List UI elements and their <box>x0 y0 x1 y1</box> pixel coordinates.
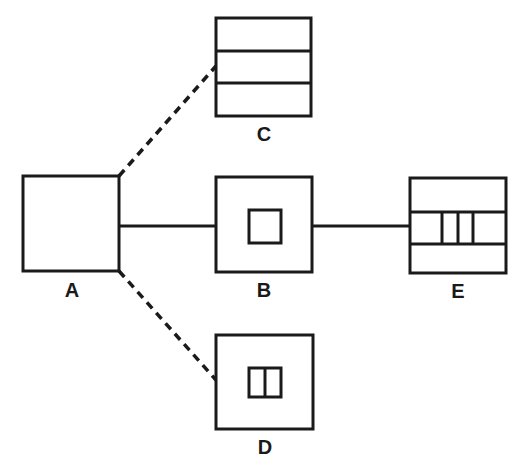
node-b-box <box>216 177 312 272</box>
node-a-label: A <box>65 279 79 301</box>
diagram-canvas: A B C D E <box>0 0 529 468</box>
node-c-box <box>216 18 311 116</box>
node-e <box>410 178 506 273</box>
node-b-inner-square <box>249 210 281 243</box>
node-c <box>216 18 311 116</box>
node-c-label: C <box>257 123 271 145</box>
node-d <box>216 335 313 429</box>
node-b-label: B <box>257 279 271 301</box>
edge-a-c-dashed <box>119 66 216 176</box>
node-a-box <box>23 176 119 271</box>
node-e-label: E <box>451 280 464 302</box>
node-b <box>216 177 312 272</box>
node-d-label: D <box>258 436 272 458</box>
edge-a-d-dashed <box>119 271 216 380</box>
